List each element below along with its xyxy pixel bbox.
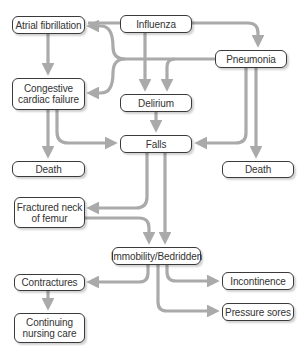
- node-label: Contractures: [21, 277, 77, 288]
- arrow-immobility-to-contractures: [92, 264, 148, 282]
- node-falls: Falls: [120, 135, 192, 153]
- node-death-right: Death: [222, 161, 294, 178]
- node-contractures: Contractures: [14, 274, 85, 291]
- node-congestive-cardiac-failure: Congestive cardiac failure: [12, 78, 85, 110]
- node-label-line1: Continuing: [26, 317, 73, 328]
- arrow-falls-to-fractured: [92, 152, 147, 208]
- node-immobility-bedridden: Immobility/Bedridden: [112, 247, 201, 265]
- node-pneumonia: Pneumonia: [215, 50, 287, 68]
- node-label: Influenza: [136, 19, 176, 30]
- arrow-to-congestive-failure: [92, 59, 125, 93]
- arrow-to-atrial-fibrillation: [92, 26, 125, 59]
- node-label: Pressure sores: [225, 307, 291, 318]
- node-death-left: Death: [12, 161, 85, 177]
- arrow-immobility-to-incontinence: [167, 264, 214, 281]
- node-pressure-sores: Pressure sores: [222, 303, 294, 321]
- node-label: Death: [245, 164, 271, 175]
- node-label-line1: Fractured neck: [17, 202, 82, 213]
- node-label: Atrial fibrillation: [16, 20, 82, 31]
- arrow-pneumonia-to-delirium: [167, 59, 175, 86]
- node-label-line2: cardiac failure: [18, 94, 79, 105]
- node-label: Immobility/Bedridden: [111, 251, 202, 262]
- node-label: Delirium: [138, 98, 174, 109]
- node-fractured-neck-of-femur: Fractured neck of femur: [14, 197, 85, 228]
- node-label-line1: Congestive: [24, 83, 73, 94]
- node-label-line2: of femur: [32, 213, 68, 224]
- node-label: Death: [35, 164, 61, 175]
- flowchart-diagram: Atrial fibrillation Influenza Pneumonia …: [0, 0, 306, 352]
- node-label: Incontinence: [230, 276, 286, 287]
- node-incontinence: Incontinence: [222, 272, 294, 290]
- node-label: Falls: [146, 139, 167, 150]
- node-influenza: Influenza: [120, 15, 192, 33]
- node-label: Pneumonia: [226, 54, 276, 65]
- node-continuing-nursing-care: Continuing nursing care: [14, 313, 85, 343]
- arrow-fractured-to-immobility: [84, 218, 149, 239]
- node-label-line2: nursing care: [23, 328, 77, 339]
- node-delirium: Delirium: [120, 94, 192, 112]
- arrow-congestive-to-falls: [57, 109, 112, 143]
- node-atrial-fibrillation: Atrial fibrillation: [12, 16, 85, 34]
- arrow-pneumonia-to-falls: [200, 67, 246, 143]
